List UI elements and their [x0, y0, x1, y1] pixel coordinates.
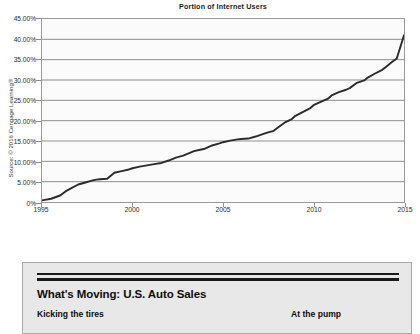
y-axis-tick-mark — [36, 182, 41, 183]
x-axis-tick-mark — [41, 203, 42, 207]
y-axis-tick-mark — [36, 18, 41, 19]
internet-users-chart: Portion of Internet Users 45.00%40.00%35… — [0, 0, 420, 232]
x-axis-tick-label: 2010 — [306, 206, 321, 213]
series-line — [42, 35, 404, 200]
auto-sales-panel: What's Moving: U.S. Auto Sales Kicking t… — [22, 262, 412, 334]
chart-plot-area — [41, 18, 405, 203]
x-axis-tick-mark — [223, 203, 224, 207]
x-axis-tick-label: 1995 — [33, 206, 48, 213]
panel-subhead-kicking-the-tires: Kicking the tires — [37, 309, 104, 319]
y-axis-tick-mark — [36, 80, 41, 81]
source-credit: Source: © 2016 Cengage Learning® — [7, 66, 14, 178]
y-axis-tick-mark — [36, 59, 41, 60]
y-axis-tick-label: 45.00% — [2, 15, 36, 22]
y-axis-tick-label: 0% — [2, 200, 36, 207]
panel-divider-bottom — [37, 278, 399, 281]
x-axis-tick-label: 2005 — [215, 206, 230, 213]
y-axis-tick-mark — [36, 162, 41, 163]
y-axis-tick-label: 40.00% — [2, 35, 36, 42]
panel-divider-top — [37, 273, 399, 275]
chart-title: Portion of Internet Users — [41, 2, 405, 11]
x-axis-tick-label: 2015 — [397, 206, 412, 213]
x-axis-tick-mark — [314, 203, 315, 207]
y-axis-tick-mark — [36, 39, 41, 40]
panel-title: What's Moving: U.S. Auto Sales — [37, 288, 206, 300]
y-axis-tick-mark — [36, 141, 41, 142]
y-axis-tick-mark — [36, 121, 41, 122]
chart-series-line — [42, 19, 404, 202]
x-axis-tick-mark — [405, 203, 406, 207]
y-axis-tick-mark — [36, 100, 41, 101]
panel-subhead-at-the-pump: At the pump — [291, 309, 341, 319]
x-axis-tick-label: 2000 — [124, 206, 139, 213]
x-axis-tick-mark — [132, 203, 133, 207]
y-axis-tick-label: 35.00% — [2, 56, 36, 63]
y-axis-tick-label: 5.00% — [2, 179, 36, 186]
